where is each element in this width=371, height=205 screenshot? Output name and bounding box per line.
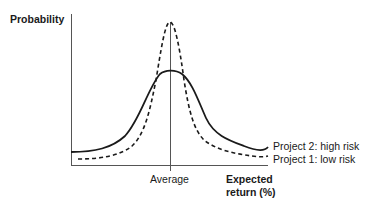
legend-low-risk: Project 1: low risk [273, 153, 355, 165]
y-axis-label: Probability [10, 13, 64, 25]
legend-high-risk: Project 2: high risk [273, 140, 359, 152]
x-axis-label-line2: return (%) [226, 186, 276, 198]
curve-low-risk [78, 22, 268, 159]
average-label: Average [150, 173, 189, 185]
x-axis-label-line1: Expected [226, 173, 273, 185]
curve-high-risk [71, 71, 268, 152]
